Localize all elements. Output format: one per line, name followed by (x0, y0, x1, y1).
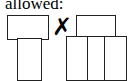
right-bottom-left-box (66, 36, 89, 81)
left-top-box (7, 15, 49, 40)
allowed-caption: allowed: (5, 0, 64, 12)
right-top-box (76, 15, 116, 38)
left-bottom-box (17, 38, 42, 81)
right-bottom-right-box (104, 36, 127, 81)
x-mark-icon: ✗ (52, 16, 68, 38)
